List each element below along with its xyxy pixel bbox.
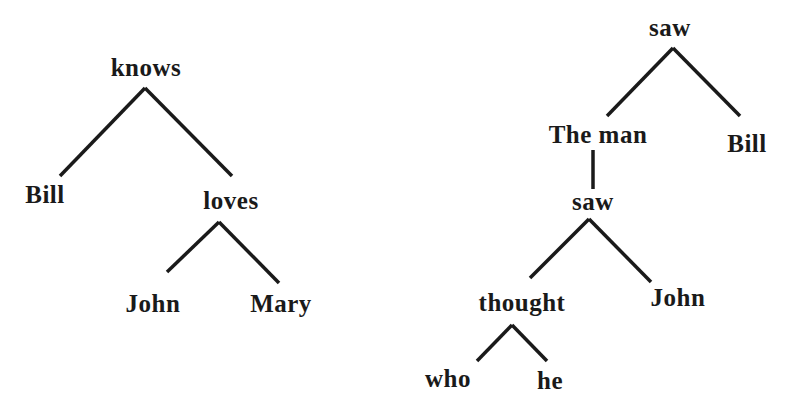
node-loves: loves <box>203 188 258 213</box>
edge-thought-he <box>512 325 547 361</box>
node-thought: thought <box>479 290 566 315</box>
node-saw-relative: saw <box>572 189 614 214</box>
node-bill-right: Bill <box>727 131 767 156</box>
node-john: John <box>126 291 181 316</box>
node-bill: Bill <box>25 182 65 207</box>
edge-knows-loves <box>145 88 232 176</box>
node-who: who <box>425 366 471 391</box>
node-knows: knows <box>111 55 182 80</box>
edge-saw-john <box>589 219 651 282</box>
edge-saw-bill <box>673 48 740 116</box>
edge-loves-mary <box>219 222 279 283</box>
node-he: he <box>537 368 563 393</box>
edge-saw-thought <box>530 219 589 278</box>
node-mary: Mary <box>250 291 312 316</box>
edge-saw-theman <box>607 48 673 116</box>
node-john-right: John <box>651 285 706 310</box>
edge-loves-john <box>167 222 219 272</box>
node-the-man: The man <box>549 122 648 147</box>
edge-knows-bill <box>60 88 145 176</box>
edge-thought-who <box>477 325 512 361</box>
node-saw-root: saw <box>649 15 691 40</box>
